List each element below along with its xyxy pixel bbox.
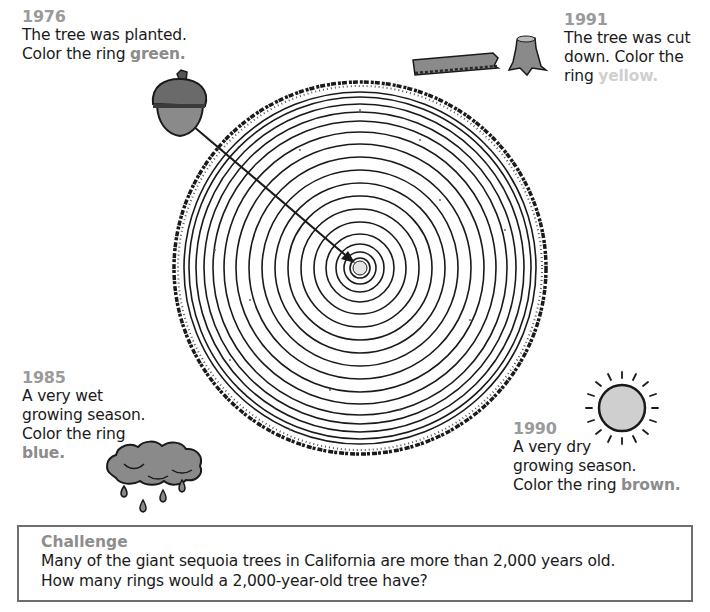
pith xyxy=(353,261,367,275)
color-word-blue: blue xyxy=(22,444,59,462)
year-label: 1976 xyxy=(22,7,187,26)
tree-cross-section xyxy=(174,82,546,454)
challenge-question: How many rings would a 2,000-year-old tr… xyxy=(41,572,691,592)
cut-tree-icon xyxy=(413,36,546,75)
challenge-box: Challenge Many of the giant sequoia tree… xyxy=(17,525,693,602)
note-text: The tree was planted. xyxy=(22,26,187,45)
note-text: down. Color the xyxy=(564,48,690,67)
year-label: 1991 xyxy=(564,10,690,29)
color-word-brown: brown xyxy=(621,476,675,494)
note-text: The tree was cut xyxy=(564,29,690,48)
punctuation: . xyxy=(675,476,681,494)
color-instruction: blue. xyxy=(22,444,145,463)
note-1985-wet-season: 1985 A very wet growing season. Color th… xyxy=(22,368,145,463)
color-instruction: ring yellow. xyxy=(564,67,690,86)
year-label: 1990 xyxy=(513,419,680,438)
note-text: growing season. xyxy=(22,406,145,425)
note-1976-planted: 1976 The tree was planted. Color the rin… xyxy=(22,7,187,64)
note-text: growing season. xyxy=(513,457,680,476)
instruction-prefix: Color the ring xyxy=(22,45,130,63)
challenge-title: Challenge xyxy=(41,533,691,552)
note-1991-cut-down: 1991 The tree was cut down. Color the ri… xyxy=(564,10,690,86)
punctuation: . xyxy=(59,444,65,462)
worksheet-illustrations xyxy=(0,0,710,612)
year-label: 1985 xyxy=(22,368,145,387)
color-word-green: green xyxy=(130,45,180,63)
challenge-text-line: Many of the giant sequoia trees in Calif… xyxy=(41,552,691,572)
instruction-prefix: ring xyxy=(564,67,598,85)
color-instruction: Color the ring green. xyxy=(22,45,187,64)
note-text: A very wet xyxy=(22,387,145,406)
color-word-yellow: yellow xyxy=(598,67,652,85)
instruction-prefix: Color the ring xyxy=(513,476,621,494)
color-instruction: Color the ring brown. xyxy=(513,476,680,495)
note-1990-dry-season: 1990 A very dry growing season. Color th… xyxy=(513,419,680,495)
note-text: A very dry xyxy=(513,438,680,457)
punctuation: . xyxy=(180,45,186,63)
punctuation: . xyxy=(652,67,658,85)
acorn-icon xyxy=(153,70,206,136)
note-text: Color the ring xyxy=(22,425,145,444)
